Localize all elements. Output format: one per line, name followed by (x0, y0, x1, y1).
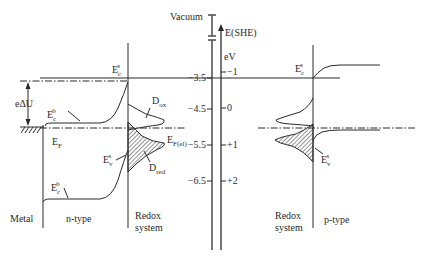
she-tick-label: 0 (227, 102, 232, 113)
ec-surface-label-right: Ecs (295, 61, 304, 77)
d-red-distribution (128, 122, 164, 172)
ev-surface-label: Evs (103, 152, 113, 168)
valence-band-curve-right (313, 130, 380, 140)
d-ox-label: Dox (152, 95, 167, 109)
ec-surface-label: Ecs (112, 62, 121, 78)
vacuum-axis (207, 15, 216, 250)
d-red-distribution-right (275, 124, 313, 162)
d-red-label: Dred (149, 162, 166, 176)
ef-el-label: EF(el) (167, 134, 187, 148)
she-tick-label: +2 (227, 175, 238, 186)
n-type-label: n-type (66, 213, 92, 224)
left-panel (20, 43, 164, 228)
conduction-band-curve (45, 82, 128, 126)
arrow-up-icon (218, 24, 224, 31)
right-panel (275, 45, 380, 228)
redox-label-left: Redox (135, 210, 161, 221)
d-ox-distribution-right (276, 98, 313, 126)
she-axis-label: E(SHE) (225, 27, 257, 39)
ec-bulk-lower-label: Ecb (51, 180, 60, 196)
ec-bulk-label: Ecb (47, 107, 56, 123)
system-label-left: system (135, 222, 163, 233)
she-unit-label: eV (224, 51, 236, 62)
p-type-label: p-type (324, 214, 350, 225)
redox-label-right: Redox (275, 210, 301, 221)
she-tick-label: +1 (227, 139, 238, 150)
metal-label: Metal (10, 213, 34, 224)
she-tick-label: −1 (227, 66, 238, 77)
arrow-down-icon (26, 119, 31, 126)
vacuum-label: Vacuum (170, 11, 203, 22)
conduction-band-curve-right (313, 65, 380, 78)
vacuum-tick-label: −4.5 (188, 103, 206, 114)
metal-hatch (21, 127, 41, 133)
ev-surface-label-right: Evs (321, 152, 331, 168)
vacuum-tick-label: −6.5 (188, 175, 206, 186)
fermi-level-label: EF (52, 136, 62, 150)
vacuum-tick-label: −5.5 (188, 139, 206, 150)
system-label-right: system (275, 222, 303, 233)
arrow-up-icon (26, 82, 31, 89)
delta-u-label: eΔU (15, 98, 34, 109)
band-diagram: Vacuum −3.5 −4.5 −5.5 −6.5 E(SHE) eV −1 … (0, 0, 429, 263)
valence-band-curve (43, 150, 128, 202)
